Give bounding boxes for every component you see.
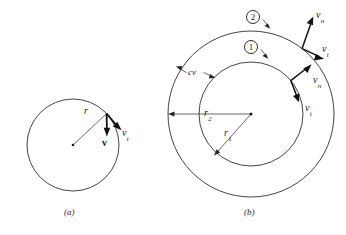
- panel-a-vt-base: v: [122, 127, 126, 138]
- outer-vt-subscript: t: [327, 51, 329, 59]
- station-1-badge: 1: [244, 40, 258, 54]
- r2-subscript: 2: [208, 115, 212, 123]
- figure-container: r v vt (a) 2 1 cv r2 r1 vn vt vn vt (b): [0, 0, 346, 235]
- outer-tangential-velocity-label: vt: [322, 44, 328, 57]
- panel-a-vt-subscript: t: [127, 135, 129, 143]
- outer-vn-subscript: n: [321, 17, 325, 25]
- control-volume-label: cv: [188, 68, 196, 77]
- panel-b-r1-dimension: [214, 114, 251, 156]
- outer-radius-label: r2: [204, 108, 211, 121]
- inner-vn-base: v: [313, 74, 317, 85]
- inner-vt-subscript: t: [310, 110, 312, 118]
- panel-a-radius-label: r: [84, 106, 88, 116]
- panel-b-inner-normal-arrow: [291, 64, 312, 80]
- inner-normal-velocity-label: vn: [313, 75, 321, 88]
- panel-b-caption: (b): [244, 207, 255, 217]
- panel-a-velocity-label: v: [102, 138, 107, 148]
- outer-normal-velocity-label: vn: [316, 10, 324, 23]
- panel-a-tangential-arrow: [107, 114, 122, 131]
- r1-subscript: 1: [228, 135, 232, 143]
- inner-vt-base: v: [305, 102, 309, 113]
- panel-b-badge2-leader: [263, 20, 270, 29]
- inner-radius-label: r1: [224, 128, 231, 141]
- panel-a-caption: (a): [64, 207, 75, 217]
- station-2-badge: 2: [246, 10, 260, 24]
- outer-vt-base: v: [322, 43, 326, 54]
- panel-b-badge1-leader: [261, 50, 268, 59]
- panel-b-outer-normal-arrow: [302, 17, 313, 49]
- figure-drawing: [0, 0, 346, 235]
- inner-tangential-velocity-label: vt: [305, 103, 311, 116]
- panel-a-group: [27, 99, 122, 191]
- panel-a-tangential-velocity-label: vt: [122, 128, 128, 141]
- inner-vn-subscript: n: [318, 82, 322, 90]
- outer-vn-base: v: [316, 9, 320, 20]
